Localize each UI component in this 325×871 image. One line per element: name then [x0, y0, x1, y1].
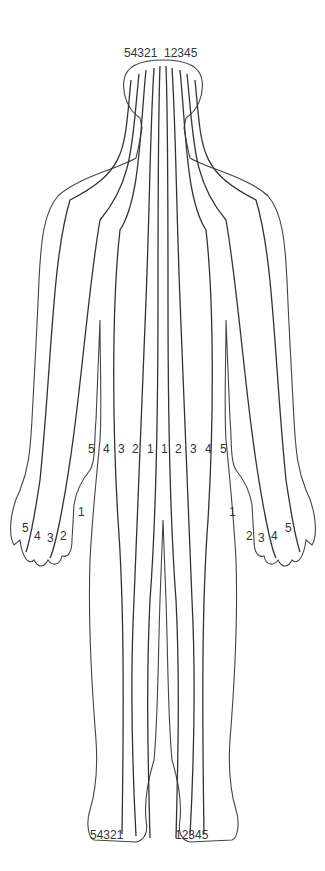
torso-label: 3 — [118, 442, 125, 456]
left-finger-label: 2 — [60, 529, 67, 543]
torso-label: 5 — [88, 442, 95, 456]
torso-label: 4 — [103, 442, 110, 456]
left-finger-label: 5 — [22, 521, 29, 535]
torso-label: 3 — [190, 442, 197, 456]
head-label-left: 54321 — [124, 46, 158, 60]
right-finger-label: 2 — [246, 529, 253, 543]
right-finger-label: 4 — [271, 529, 278, 543]
torso-label: 5 — [220, 442, 227, 456]
torso-label: 2 — [175, 442, 182, 456]
torso-label: 2 — [132, 442, 139, 456]
right-finger-label: 3 — [258, 531, 265, 545]
right-zone-lines — [166, 66, 300, 838]
left-foot-label: 54321 — [90, 828, 124, 842]
torso-label: 1 — [147, 442, 154, 456]
torso-label: 4 — [205, 442, 212, 456]
left-finger-label: 3 — [47, 531, 54, 545]
body-zones-diagram: 54321 12345 5 4 3 2 1 1 2 3 4 5 1 1 5 4 … — [0, 0, 325, 871]
left-finger-label: 4 — [34, 529, 41, 543]
torso-label: 1 — [161, 442, 168, 456]
head-label-right: 12345 — [164, 46, 198, 60]
left-thumb-label: 1 — [78, 505, 85, 519]
right-foot-label: 12345 — [175, 828, 209, 842]
right-finger-label: 5 — [285, 521, 292, 535]
right-thumb-label: 1 — [229, 505, 236, 519]
